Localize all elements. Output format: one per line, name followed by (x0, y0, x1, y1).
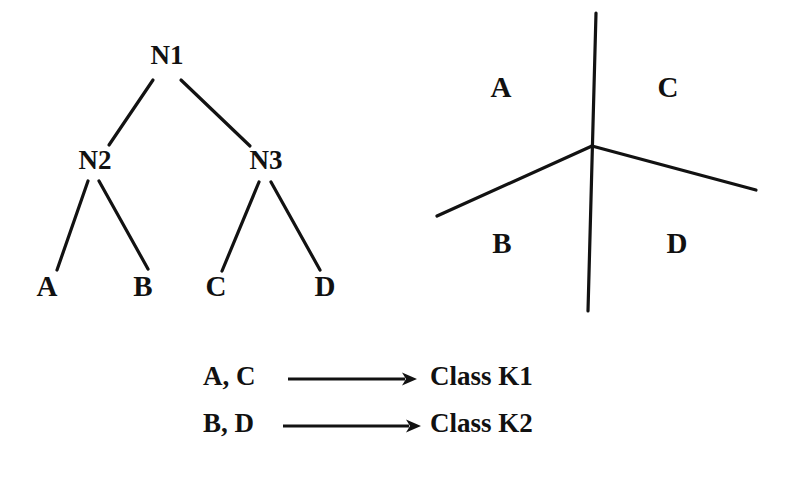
partition-region-d[interactable]: D (667, 227, 688, 259)
partition-lower-right-split-line (592, 146, 756, 190)
tree-edge-n1-n3 (181, 80, 250, 146)
legend-row-k2: B, D Class K2 (203, 408, 533, 438)
partition-lower-left-split-line (437, 146, 592, 216)
figure-root: N1 N2 N3 A B C D A C B D (0, 0, 796, 490)
tree-edges (57, 80, 320, 271)
partition-lines (437, 13, 756, 311)
tree-edge-n1-n2 (109, 80, 153, 145)
tree-node-n2[interactable]: N2 (79, 145, 112, 175)
legend-source-k1: A, C (203, 361, 256, 391)
tree-node-n1[interactable]: N1 (151, 40, 184, 70)
tree-node-n3[interactable]: N3 (250, 145, 283, 175)
tree-leaf-b[interactable]: B (133, 270, 152, 302)
tree-leaf-a[interactable]: A (37, 270, 58, 302)
legend-target-k2: Class K2 (430, 408, 533, 438)
partition-region-a[interactable]: A (491, 71, 512, 103)
class-mapping-legend: A, C Class K1 B, D Class K2 (203, 361, 533, 438)
tree-leaf-labels: A B C D (37, 270, 336, 302)
legend-source-k2: B, D (203, 408, 254, 438)
tree-edge-n3-c (222, 182, 259, 271)
tree-node-labels: N1 N2 N3 (79, 40, 283, 175)
tree-edge-n2-b (99, 181, 148, 269)
decision-tree-group: N1 N2 N3 A B C D (37, 40, 336, 301)
legend-target-k1: Class K1 (430, 361, 533, 391)
partition-vertical-split-line (588, 13, 596, 311)
figure-canvas: N1 N2 N3 A B C D A C B D (0, 0, 796, 490)
legend-row-k1: A, C Class K1 (203, 361, 533, 391)
tree-edge-n3-d (271, 182, 320, 270)
tree-leaf-c[interactable]: C (206, 270, 227, 302)
partition-region-c[interactable]: C (658, 71, 679, 103)
tree-leaf-d[interactable]: D (315, 270, 336, 302)
partition-region-b[interactable]: B (492, 227, 511, 259)
partition-group: A C B D (437, 13, 756, 311)
tree-edge-n2-a (57, 181, 88, 270)
